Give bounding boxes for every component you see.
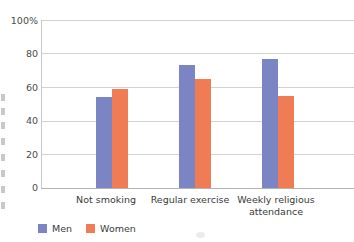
y-axis-tick-100: 100% [0,16,38,26]
y-axis-tick-20: 20 [0,150,38,160]
bar-women-not-smoking [112,89,128,188]
category-label-not-smoking: Not smoking [60,194,152,206]
category-label-line: Regular exercise [151,194,230,205]
bar-men-regular-exercise [179,65,195,188]
legend-item-men: Men [38,224,72,234]
category-label-weekly-religious-attendance: Weekly religious attendance [226,194,326,217]
bar-men-weekly-religious [262,59,278,188]
y-axis-tick-80: 80 [0,49,38,59]
legend-label-women: Women [100,224,136,234]
bar-men-not-smoking [96,97,112,188]
category-label-line: Weekly religious [237,194,315,205]
legend-item-women: Women [86,224,136,234]
chart-legend: Men Women [38,224,136,234]
bar-women-regular-exercise [195,79,211,188]
axis-baseline [41,188,354,189]
legend-swatch-women-icon [86,224,95,233]
category-label-line: Not smoking [76,194,136,205]
grouped-bar-chart: 100% 80 60 40 20 0 Not smoking Regular e… [0,0,354,242]
legend-swatch-men-icon [38,224,47,233]
bar-group-container [41,20,345,188]
y-axis-tick-40: 40 [0,116,38,126]
y-axis-tick-0: 0 [0,183,38,193]
bar-women-weekly-religious [278,96,294,188]
scan-artifact [196,232,205,238]
y-axis-tick-60: 60 [0,83,38,93]
category-label-line: attendance [249,206,303,217]
category-label-regular-exercise: Regular exercise [140,194,240,206]
legend-label-men: Men [52,224,72,234]
